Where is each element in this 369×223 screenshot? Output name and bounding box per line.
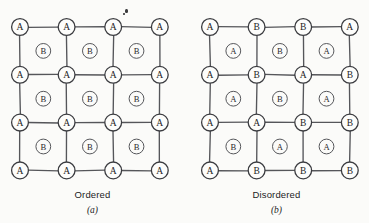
lattice-node xyxy=(248,66,265,83)
interstitial-atom xyxy=(319,44,334,59)
interstitial-atom xyxy=(226,139,241,154)
lattice-diagram-ordered: BBBBBBBBBAAAAAAAAAAAAAAAA xyxy=(0,0,185,185)
lattice-node xyxy=(341,162,358,179)
lattice-node xyxy=(105,162,122,179)
interstitial-atom xyxy=(83,139,98,154)
lattice-node xyxy=(12,66,29,83)
interstitial-atom xyxy=(273,139,288,154)
lattice-node xyxy=(248,114,265,131)
lattice-node xyxy=(151,114,168,131)
scan-artifact-speck xyxy=(123,13,125,15)
lattice-node xyxy=(295,19,312,36)
interstitial-atom xyxy=(319,139,334,154)
interstitial-atom xyxy=(36,44,51,59)
interstitial-atom xyxy=(226,44,241,59)
lattice-node xyxy=(202,19,219,36)
lattice-node xyxy=(295,114,312,131)
figure-container: BBBBBBBBBAAAAAAAAAAAAAAAA Ordered (a) AB… xyxy=(0,0,369,223)
interstitial-atom xyxy=(273,91,288,106)
lattice-node xyxy=(12,114,29,131)
lattice-node xyxy=(341,19,358,36)
lattice-node xyxy=(295,162,312,179)
lattice-node xyxy=(151,19,168,36)
lattice-node xyxy=(58,66,75,83)
interstitial-atom xyxy=(83,91,98,106)
lattice-node xyxy=(202,114,219,131)
interstitial-atom xyxy=(129,91,144,106)
interstitial-atom xyxy=(226,91,241,106)
scan-artifact-speck xyxy=(125,9,128,13)
caption-disordered-letter: (b) xyxy=(184,205,369,215)
lattice-node xyxy=(151,162,168,179)
interstitial-atom xyxy=(273,44,288,59)
interstitial-atom xyxy=(129,44,144,59)
lattice-node xyxy=(105,66,122,83)
lattice-node xyxy=(202,66,219,83)
lattice-node xyxy=(248,19,265,36)
lattice-node xyxy=(151,66,168,83)
lattice-node xyxy=(341,66,358,83)
lattice-node xyxy=(105,114,122,131)
lattice-node xyxy=(248,162,265,179)
lattice-node xyxy=(341,114,358,131)
interstitial-atom xyxy=(36,139,51,154)
panel-ordered: BBBBBBBBBAAAAAAAAAAAAAAAA Ordered (a) xyxy=(0,0,185,223)
lattice-node xyxy=(58,19,75,36)
interstitial-atom xyxy=(319,91,334,106)
lattice-node xyxy=(12,162,29,179)
caption-disordered-name: Disordered xyxy=(184,189,369,200)
interstitial-atom xyxy=(83,44,98,59)
interstitial-atom xyxy=(36,91,51,106)
lattice-diagram-disordered: ABAABABAAABBAABABAABBABBB xyxy=(184,0,369,185)
panel-disordered: ABAABABAAABBAABABAABBABBB Disordered (b) xyxy=(184,0,369,223)
lattice-node xyxy=(295,66,312,83)
caption-ordered-name: Ordered xyxy=(0,189,185,200)
lattice-node xyxy=(202,162,219,179)
interstitial-atom xyxy=(129,139,144,154)
caption-ordered-letter: (a) xyxy=(0,205,185,215)
lattice-node xyxy=(105,19,122,36)
lattice-node xyxy=(58,162,75,179)
lattice-node xyxy=(58,114,75,131)
lattice-node xyxy=(12,19,29,36)
